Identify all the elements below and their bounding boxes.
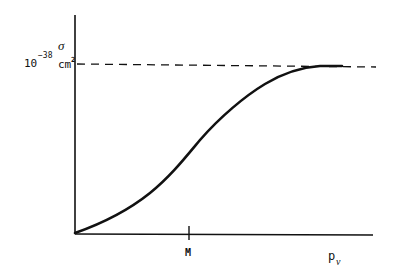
y-level-label-exp: −38: [38, 51, 53, 60]
cross-section-diagram: σ 10 −38 cm 2 M p ν: [0, 0, 395, 273]
x-axis: [75, 234, 373, 235]
y-level-label-base: 10: [24, 57, 37, 70]
y-level-label-unit: cm: [58, 58, 72, 71]
x-axis-label-base: p: [328, 249, 335, 263]
cross-section-curve: [75, 66, 342, 233]
x-axis-label-sub: ν: [336, 256, 341, 267]
x-tick-label-m: M: [185, 247, 191, 258]
y-axis-label: σ: [58, 38, 65, 53]
y-level-label-unit-exp: 2: [71, 56, 75, 64]
